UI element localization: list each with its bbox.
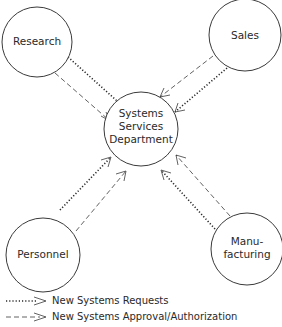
research-label: Research <box>13 35 61 47</box>
approval-line-manufacturing <box>176 155 230 216</box>
center-label-line-2: Services <box>119 120 163 132</box>
arrowhead-icon <box>176 155 186 165</box>
requests-line-manufacturing <box>161 170 215 229</box>
legend-label-requests: New Systems Requests <box>52 295 169 306</box>
approval-line-personnel <box>76 171 126 231</box>
manufacturing-label-line-2: facturing <box>223 248 270 260</box>
requests-line-personnel <box>60 157 111 210</box>
manufacturing-label-line-1: Manu- <box>231 235 264 247</box>
node-research: Research <box>2 7 72 77</box>
flow-manufacturing-to-center <box>161 155 230 229</box>
flow-personnel-to-center <box>60 157 126 231</box>
legend-item-approval: New Systems Approval/Authorization <box>6 311 237 322</box>
node-systems-services-department: Systems Services Department <box>104 92 178 166</box>
legend-item-requests: New Systems Requests <box>6 295 169 306</box>
node-manufacturing: Manu- facturing <box>211 213 282 285</box>
systems-services-diagram: Systems Services Department Research Sal… <box>0 0 282 327</box>
personnel-label: Personnel <box>17 248 68 260</box>
node-personnel: Personnel <box>6 218 80 292</box>
center-label-line-1: Systems <box>119 107 164 119</box>
flow-sales-to-center <box>160 56 227 112</box>
approval-line-research <box>55 73 110 121</box>
sales-label: Sales <box>231 29 259 41</box>
legend: New Systems Requests New Systems Approva… <box>6 295 237 322</box>
approval-line-sales <box>160 56 213 97</box>
center-label-line-3: Department <box>109 133 173 145</box>
requests-line-sales <box>175 68 227 112</box>
node-sales: Sales <box>209 0 281 71</box>
legend-label-approval: New Systems Approval/Authorization <box>52 311 237 322</box>
